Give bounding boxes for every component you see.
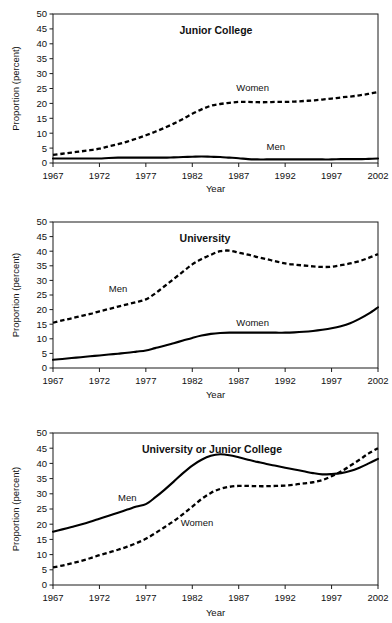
x-tick-label-2002: 2002 bbox=[367, 170, 388, 181]
chart-svg-3: 0510152025303540455019671972197719821987… bbox=[0, 405, 392, 623]
y-tick-label-10: 10 bbox=[36, 333, 47, 344]
y-tick-label-25: 25 bbox=[36, 289, 47, 300]
figure-page: 0510152025303540455019671972197719821987… bbox=[0, 0, 392, 623]
series-label-men: Men bbox=[109, 283, 127, 294]
chart-title: University bbox=[180, 232, 231, 244]
x-tick-label-2002: 2002 bbox=[367, 375, 388, 386]
y-tick-label-25: 25 bbox=[36, 503, 47, 514]
y-axis-title: Proportion (percent) bbox=[10, 46, 21, 130]
y-tick-label-20: 20 bbox=[36, 304, 47, 315]
x-tick-label-1992: 1992 bbox=[275, 592, 296, 603]
x-tick-label-1972: 1972 bbox=[89, 375, 110, 386]
x-tick-label-1997: 1997 bbox=[321, 375, 342, 386]
y-tick-label-0: 0 bbox=[42, 579, 47, 590]
x-tick-label-1987: 1987 bbox=[228, 592, 249, 603]
x-axis-title: Year bbox=[206, 607, 225, 618]
y-tick-label-15: 15 bbox=[36, 113, 47, 124]
y-tick-label-35: 35 bbox=[36, 260, 47, 271]
y-tick-label-35: 35 bbox=[36, 473, 47, 484]
x-tick-label-1997: 1997 bbox=[321, 592, 342, 603]
x-tick-label-1967: 1967 bbox=[42, 375, 63, 386]
y-tick-label-40: 40 bbox=[36, 458, 47, 469]
y-tick-label-40: 40 bbox=[36, 246, 47, 257]
y-tick-label-50: 50 bbox=[36, 8, 47, 19]
y-tick-label-50: 50 bbox=[36, 427, 47, 438]
x-tick-label-1977: 1977 bbox=[135, 170, 156, 181]
series-label-women: Women bbox=[236, 317, 269, 328]
series-label-women: Women bbox=[236, 82, 269, 93]
series-label-men: Men bbox=[118, 492, 136, 503]
y-tick-label-0: 0 bbox=[42, 362, 47, 373]
y-axis-title: Proportion (percent) bbox=[10, 253, 21, 337]
chart-title: University or Junior College bbox=[142, 443, 282, 455]
x-tick-label-1982: 1982 bbox=[182, 170, 203, 181]
series-label-women: Women bbox=[181, 517, 214, 528]
y-tick-label-25: 25 bbox=[36, 83, 47, 94]
panel-background-3 bbox=[0, 405, 392, 623]
chart-panel-junior-college: 0510152025303540455019671972197719821987… bbox=[0, 0, 392, 200]
chart-title: Junior College bbox=[180, 24, 253, 36]
x-tick-label-1967: 1967 bbox=[42, 170, 63, 181]
x-axis-title: Year bbox=[206, 389, 225, 400]
x-tick-label-1977: 1977 bbox=[135, 375, 156, 386]
y-tick-label-30: 30 bbox=[36, 488, 47, 499]
y-tick-label-50: 50 bbox=[36, 216, 47, 227]
x-tick-label-1992: 1992 bbox=[275, 170, 296, 181]
x-tick-label-1987: 1987 bbox=[228, 375, 249, 386]
x-tick-label-1967: 1967 bbox=[42, 592, 63, 603]
x-tick-label-2002: 2002 bbox=[367, 592, 388, 603]
y-tick-label-10: 10 bbox=[36, 549, 47, 560]
y-tick-label-0: 0 bbox=[42, 157, 47, 168]
y-tick-label-45: 45 bbox=[36, 231, 47, 242]
y-tick-label-5: 5 bbox=[42, 143, 47, 154]
x-axis-title: Year bbox=[206, 183, 225, 194]
chart-svg-2: 0510152025303540455019671972197719821987… bbox=[0, 200, 392, 405]
x-tick-label-1997: 1997 bbox=[321, 170, 342, 181]
y-tick-label-45: 45 bbox=[36, 23, 47, 34]
y-tick-label-5: 5 bbox=[42, 564, 47, 575]
y-tick-label-15: 15 bbox=[36, 534, 47, 545]
x-tick-label-1982: 1982 bbox=[182, 592, 203, 603]
x-tick-label-1992: 1992 bbox=[275, 375, 296, 386]
chart-panel-university: 0510152025303540455019671972197719821987… bbox=[0, 200, 392, 405]
y-tick-label-45: 45 bbox=[36, 443, 47, 454]
x-tick-label-1982: 1982 bbox=[182, 375, 203, 386]
y-axis-title: Proportion (percent) bbox=[10, 467, 21, 551]
x-tick-label-1972: 1972 bbox=[89, 170, 110, 181]
x-tick-label-1977: 1977 bbox=[135, 592, 156, 603]
y-tick-label-30: 30 bbox=[36, 275, 47, 286]
series-label-men: Men bbox=[267, 141, 285, 152]
chart-panel-university-or-junior-college: 0510152025303540455019671972197719821987… bbox=[0, 405, 392, 623]
y-tick-label-35: 35 bbox=[36, 53, 47, 64]
x-tick-label-1972: 1972 bbox=[89, 592, 110, 603]
x-tick-label-1987: 1987 bbox=[228, 170, 249, 181]
y-tick-label-5: 5 bbox=[42, 348, 47, 359]
y-tick-label-20: 20 bbox=[36, 98, 47, 109]
y-tick-label-40: 40 bbox=[36, 38, 47, 49]
y-tick-label-30: 30 bbox=[36, 68, 47, 79]
y-tick-label-15: 15 bbox=[36, 319, 47, 330]
y-tick-label-10: 10 bbox=[36, 128, 47, 139]
chart-svg-1: 0510152025303540455019671972197719821987… bbox=[0, 0, 392, 200]
y-tick-label-20: 20 bbox=[36, 519, 47, 530]
